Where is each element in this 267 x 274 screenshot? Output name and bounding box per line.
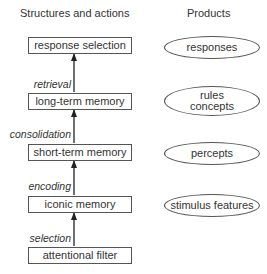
product-stimulus-features: stimulus features [164,194,260,217]
product-stimulus-features-text: stimulus features [170,200,253,211]
product-rules-concepts: rules concepts [164,86,260,116]
box-iconic-memory: iconic memory [28,196,132,213]
product-percepts: percepts [164,142,260,165]
product-responses-text: responses [187,42,238,53]
label-selection: selection [0,232,71,244]
label-retrieval: retrieval [0,78,71,90]
product-concepts-text: concepts [190,101,234,112]
box-long-term-memory: long-term memory [28,93,132,110]
product-responses: responses [164,36,260,59]
box-short-term-memory: short-term memory [28,144,132,161]
box-attentional-filter: attentional filter [28,247,132,264]
label-consolidation: consolidation [0,128,71,140]
box-response-selection: response selection [28,37,132,54]
label-encoding: encoding [0,180,71,192]
product-percepts-text: percepts [191,148,233,159]
